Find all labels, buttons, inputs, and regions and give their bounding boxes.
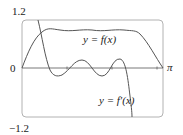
y-axis-zero-label: 0 xyxy=(10,63,16,74)
f-curve-label: y = f(x) xyxy=(83,34,116,45)
chart-plot xyxy=(0,0,183,135)
y-axis-bottom-label: −1.2 xyxy=(9,123,29,134)
x-axis-pi-label: π xyxy=(167,62,173,73)
f-prime-curve-label: y = f′(x) xyxy=(99,95,134,106)
y-axis-top-label: 1.2 xyxy=(12,6,26,17)
